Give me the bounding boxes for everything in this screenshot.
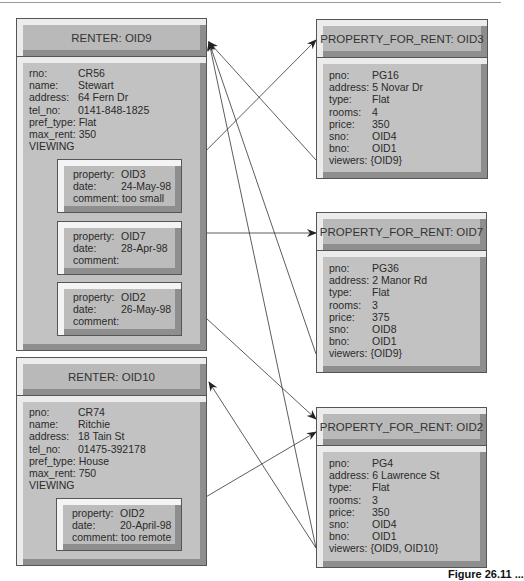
field-value: {OID9} bbox=[371, 347, 403, 359]
field-value: PG4 bbox=[372, 457, 393, 469]
field-value: 750 bbox=[79, 467, 97, 479]
viewing-date: 26-May-98 bbox=[121, 303, 171, 315]
property-oid3-body: pno:PG16 address:5 Novar Dr type:Flat ro… bbox=[317, 58, 487, 178]
field-key: price: bbox=[329, 118, 372, 130]
field-key: property: bbox=[73, 168, 121, 180]
field-key: comment: bbox=[72, 531, 118, 543]
field-key: name: bbox=[29, 418, 78, 430]
field-value: Flat bbox=[372, 481, 390, 493]
field-key: sno: bbox=[329, 130, 372, 142]
field-key: sno: bbox=[329, 323, 372, 335]
viewing-comment: too small bbox=[122, 192, 164, 204]
field-key: tel_no: bbox=[29, 443, 78, 455]
field-key: comment: bbox=[73, 315, 119, 327]
field-value: 2 Manor Rd bbox=[372, 274, 427, 286]
renter-oid10-header: RENTER: OID10 bbox=[17, 358, 206, 396]
property-oid7-body: pno:PG36 address:2 Manor Rd type:Flat ro… bbox=[317, 251, 486, 372]
property-oid7-fields: pno:PG36 address:2 Manor Rd type:Flat ro… bbox=[329, 262, 427, 360]
field-key: date: bbox=[72, 519, 120, 531]
field-key: name: bbox=[29, 79, 78, 91]
arrow-oid3-viewers-to-oid9 bbox=[209, 42, 316, 160]
viewing-date: 24-May-98 bbox=[121, 180, 171, 192]
field-key: price: bbox=[329, 311, 372, 323]
field-key: type: bbox=[329, 286, 372, 298]
field-value: Flat bbox=[372, 93, 390, 105]
field-key: address: bbox=[329, 469, 369, 481]
field-key: viewers: bbox=[329, 542, 368, 554]
field-value: 3 bbox=[372, 299, 378, 311]
field-key: date: bbox=[73, 303, 121, 315]
field-value: 350 bbox=[372, 118, 390, 130]
viewing-comment: too remote bbox=[121, 531, 171, 543]
field-key: rooms: bbox=[329, 299, 372, 311]
field-value: 350 bbox=[372, 506, 390, 518]
field-value: OID1 bbox=[372, 335, 397, 347]
viewing-oid9-1: property:OID3 date:24-May-98 comment:too… bbox=[57, 159, 182, 213]
field-key: address: bbox=[29, 91, 78, 103]
field-value: 3 bbox=[372, 494, 378, 506]
field-key: viewers: bbox=[329, 154, 368, 166]
field-key: property: bbox=[73, 230, 121, 242]
property-oid2-header: PROPERTY_FOR_RENT: OID2 bbox=[317, 408, 486, 446]
renter-oid10-title: RENTER: OID10 bbox=[68, 371, 155, 383]
arrow-oid7-viewers-to-oid9 bbox=[209, 42, 316, 354]
field-value: 18 Tain St bbox=[78, 430, 125, 442]
field-value: Flat bbox=[79, 116, 97, 128]
viewing-property: OID2 bbox=[121, 291, 146, 303]
viewing-oid9-2: property:OID7 date:28-Apr-98 comment: bbox=[57, 221, 182, 275]
field-value: House bbox=[79, 455, 109, 467]
field-value: 64 Fern Dr bbox=[78, 91, 128, 103]
property-oid3-title: PROPERTY_FOR_RENT: OID3 bbox=[320, 33, 483, 45]
field-key: sno: bbox=[329, 518, 372, 530]
property-oid7-header: PROPERTY_FOR_RENT: OID7 bbox=[317, 213, 486, 251]
field-value: OID4 bbox=[372, 518, 397, 530]
field-value: OID4 bbox=[372, 130, 397, 142]
field-key: address: bbox=[329, 274, 369, 286]
field-value: Flat bbox=[372, 286, 390, 298]
field-value: {OID9, OID10} bbox=[371, 542, 439, 554]
field-value: 350 bbox=[79, 128, 97, 140]
viewing-label: VIEWING bbox=[29, 140, 75, 152]
arrow-oid2-viewers-to-oid10 bbox=[209, 382, 316, 548]
field-key: property: bbox=[73, 291, 121, 303]
viewing-oid10-1: property:OID2 date:20-April-98 comment:t… bbox=[56, 498, 182, 551]
field-key: date: bbox=[73, 242, 121, 254]
field-key: pno: bbox=[29, 406, 78, 418]
field-key: bno: bbox=[329, 142, 372, 154]
field-value: CR56 bbox=[78, 67, 105, 79]
property-oid3-fields: pno:PG16 address:5 Novar Dr type:Flat ro… bbox=[329, 69, 423, 167]
property-oid7-object: PROPERTY_FOR_RENT: OID7 pno:PG36 address… bbox=[316, 212, 487, 373]
field-value: 01475-392178 bbox=[78, 443, 146, 455]
renter-oid10-fields: pno:CR74 name:Ritchie address:18 Tain St… bbox=[29, 406, 146, 491]
viewing-fields: property:OID7 date:28-Apr-98 comment: bbox=[73, 230, 168, 267]
viewing-fields: property:OID3 date:24-May-98 comment:too… bbox=[73, 168, 171, 205]
field-value: 0141-848-1825 bbox=[78, 104, 149, 116]
field-value: OID1 bbox=[372, 142, 397, 154]
field-value: 6 Lawrence St bbox=[372, 469, 439, 481]
field-key: pno: bbox=[329, 457, 372, 469]
property-oid3-header: PROPERTY_FOR_RENT: OID3 bbox=[317, 20, 487, 58]
field-key: bno: bbox=[329, 335, 372, 347]
figure-caption: Figure 26.11 ... bbox=[448, 568, 524, 580]
field-value: Ritchie bbox=[78, 418, 110, 430]
renter-oid9-header: RENTER: OID9 bbox=[17, 19, 206, 57]
viewing-oid9-3: property:OID2 date:26-May-98 comment: bbox=[57, 282, 182, 336]
viewing-property: OID3 bbox=[121, 168, 146, 180]
field-key: pno: bbox=[329, 262, 372, 274]
field-key: property: bbox=[72, 507, 120, 519]
field-value: {OID9} bbox=[371, 154, 403, 166]
field-key: type: bbox=[329, 481, 372, 493]
field-key: pref_type: bbox=[29, 116, 76, 128]
field-key: rooms: bbox=[329, 106, 372, 118]
field-key: rno: bbox=[29, 67, 78, 79]
field-key: address: bbox=[329, 81, 369, 93]
property-oid2-fields: pno:PG4 address:6 Lawrence St type:Flat … bbox=[329, 457, 439, 555]
field-key: pref_type: bbox=[29, 455, 76, 467]
field-value: CR74 bbox=[78, 406, 105, 418]
property-oid2-title: PROPERTY_FOR_RENT: OID2 bbox=[320, 421, 483, 433]
viewing-property: OID2 bbox=[120, 507, 145, 519]
field-key: tel_no: bbox=[29, 104, 78, 116]
field-value: PG16 bbox=[372, 69, 399, 81]
field-value: OID1 bbox=[372, 530, 397, 542]
field-key: type: bbox=[329, 93, 372, 105]
